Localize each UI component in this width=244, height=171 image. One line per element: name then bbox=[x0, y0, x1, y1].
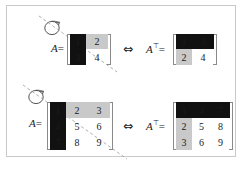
matrix-cell: 6 bbox=[88, 118, 110, 134]
matrix-label-a: A= bbox=[29, 117, 42, 129]
rotation-arrow-icon bbox=[41, 16, 67, 44]
matrix-row: 1 4 7 bbox=[176, 102, 230, 118]
matrix-cell: 6 bbox=[192, 134, 211, 150]
matrix-label-at-base: A bbox=[146, 43, 153, 55]
matrix-label-a-equals: = bbox=[58, 42, 64, 54]
matrix-label-a-equals: = bbox=[36, 117, 42, 129]
matrix-cell: 4 bbox=[192, 49, 214, 65]
matrix-cell: 1 bbox=[176, 102, 192, 118]
matrix-at-3x3: 1 4 7 2 5 8 3 6 9 bbox=[173, 102, 233, 150]
matrix-cell: 7 bbox=[211, 102, 230, 118]
matrix-label-at: A⊤= bbox=[146, 42, 165, 55]
matrix-cell: 9 bbox=[88, 134, 110, 150]
equivalence-symbol: ⇔ bbox=[123, 119, 133, 133]
matrix-row: 7 8 9 bbox=[50, 134, 110, 150]
matrix-a-3x3: 1 2 3 4 5 6 7 8 9 bbox=[47, 102, 113, 150]
matrix-label-a: A= bbox=[51, 42, 64, 54]
matrix-row: 2 5 8 bbox=[176, 118, 230, 134]
equivalence-symbol: ⇔ bbox=[123, 42, 133, 56]
matrix-cell: 8 bbox=[211, 118, 230, 134]
matrix-cell: 9 bbox=[211, 134, 230, 150]
matrix-label-a-base: A bbox=[51, 42, 58, 54]
transpose-figure: A= 1 2 3 4 ⇔ A⊤= bbox=[6, 5, 236, 157]
matrix-a-2x2: 1 2 3 4 bbox=[67, 34, 111, 65]
matrix-label-at-equals: = bbox=[159, 120, 165, 132]
matrix-cell: 5 bbox=[192, 118, 211, 134]
matrix-cell: 5 bbox=[66, 118, 88, 134]
matrix-cell: 2 bbox=[176, 49, 192, 65]
matrix-row: 2 4 bbox=[176, 49, 214, 65]
matrix-cell: 4 bbox=[50, 118, 66, 134]
matrix-cell: 1 bbox=[70, 34, 86, 49]
matrix-cell: 2 bbox=[176, 118, 192, 134]
matrix-cell: 2 bbox=[66, 102, 88, 118]
matrix-row: 1 2 bbox=[70, 34, 108, 49]
matrix-row: 1 2 3 bbox=[50, 102, 110, 118]
matrix-cell: 4 bbox=[86, 49, 108, 65]
matrix-cell: 3 bbox=[88, 102, 110, 118]
matrix-cell: 4 bbox=[192, 102, 211, 118]
matrix-row: 3 6 9 bbox=[176, 134, 230, 150]
matrix-cell: 1 bbox=[50, 102, 66, 118]
matrix-label-at: A⊤= bbox=[146, 119, 165, 132]
matrix-row: 3 4 bbox=[70, 49, 108, 65]
matrix-label-a-base: A bbox=[29, 117, 36, 129]
matrix-row: 4 5 6 bbox=[50, 118, 110, 134]
matrix-label-at-equals: = bbox=[159, 43, 165, 55]
matrix-cell: 3 bbox=[70, 49, 86, 65]
matrix-cell: 2 bbox=[86, 34, 108, 49]
matrix-cell: 8 bbox=[66, 134, 88, 150]
matrix-at-2x2: 1 3 2 4 bbox=[173, 34, 217, 65]
matrix-cell: 3 bbox=[176, 134, 192, 150]
matrix-cell: 3 bbox=[192, 34, 214, 49]
matrix-cell: 7 bbox=[50, 134, 66, 150]
matrix-row: 1 3 bbox=[176, 34, 214, 49]
matrix-cell: 1 bbox=[176, 34, 192, 49]
matrix-label-at-base: A bbox=[146, 120, 153, 132]
